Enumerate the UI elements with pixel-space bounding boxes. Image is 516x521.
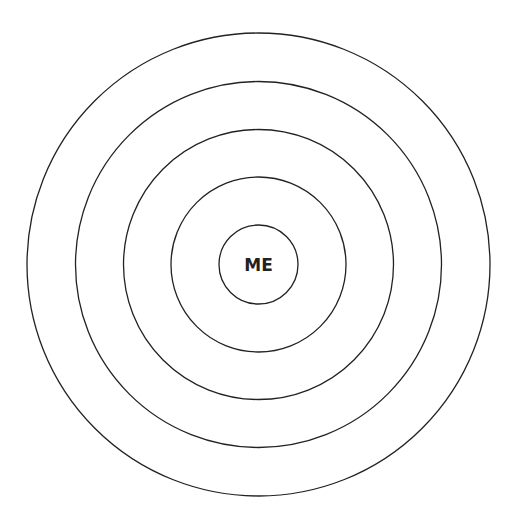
center-label: ME [244, 255, 273, 275]
concentric-circles-diagram: ME [0, 0, 516, 521]
